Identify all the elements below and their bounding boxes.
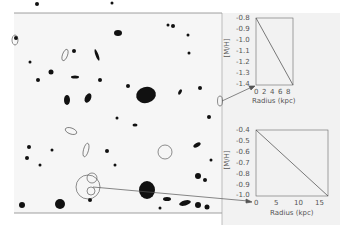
bottom-ytick: -0.9 — [236, 181, 250, 189]
top-ytick: -1.3 — [236, 69, 250, 77]
bottom-ylabel: [M/H] — [223, 150, 231, 169]
bottom-ytick: -0.4 — [236, 126, 250, 134]
bottom-xtick: 5 — [274, 199, 278, 207]
top-ytick: -1.2 — [236, 58, 250, 66]
bottom-ytick: -0.7 — [236, 159, 250, 167]
sky-image — [14, 13, 222, 213]
top-xlabel: Radius (kpc) — [252, 97, 296, 105]
bottom-xtick: 0 — [254, 199, 258, 207]
bottom-xlabel: Radius (kpc) — [270, 209, 314, 217]
bottom-xtick: 10 — [294, 199, 303, 207]
top-ylabel: [M/H] — [223, 38, 231, 57]
bottom-ytick: -0.6 — [236, 148, 250, 156]
top-ytick: -1.4 — [236, 80, 250, 88]
galaxy-field-figure — [0, 0, 340, 235]
bottom-xtick: 15 — [315, 199, 324, 207]
top-xtick: 6 — [278, 88, 282, 96]
top-xtick: 0 — [254, 88, 258, 96]
top-ytick: -1.0 — [236, 36, 250, 44]
top-ytick: -0.9 — [236, 25, 250, 33]
bottom-ytick: -1.0 — [236, 191, 250, 199]
top-xtick: 4 — [270, 88, 274, 96]
top-ytick: -1.1 — [236, 47, 250, 55]
bottom-ytick: -0.8 — [236, 170, 250, 178]
top-xtick: 8 — [286, 88, 290, 96]
bottom-ytick: -0.5 — [236, 137, 250, 145]
top-xtick: 2 — [262, 88, 266, 96]
top-ytick: -0.8 — [236, 14, 250, 22]
